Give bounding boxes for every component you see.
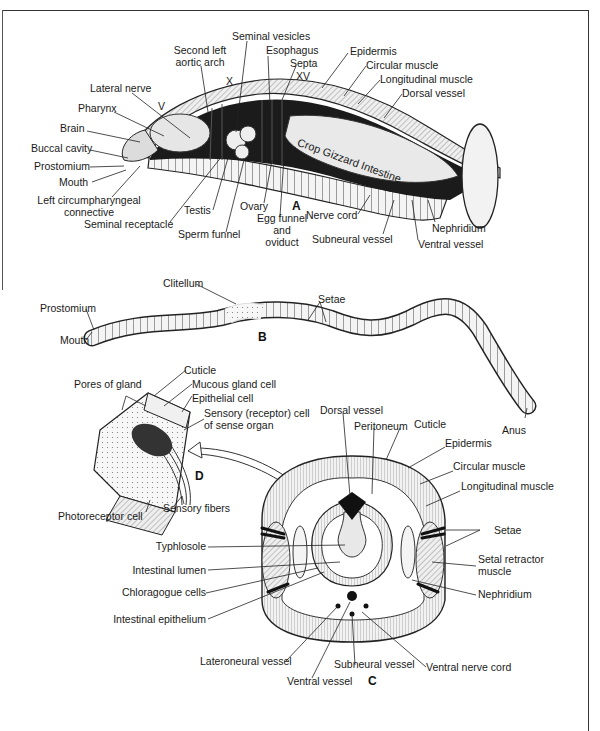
label-a-testis: Testis bbox=[184, 204, 211, 216]
panel-a-dissection bbox=[122, 79, 500, 228]
label-c-nephridium: Nephridium bbox=[478, 588, 532, 600]
panel-letter-a: A bbox=[292, 199, 301, 213]
segment-marker-x: X bbox=[226, 75, 233, 87]
label-c-lateroneural-vessel: Lateroneural vessel bbox=[200, 655, 292, 667]
label-c-setal-retractor-muscle: Setal retractor muscle bbox=[478, 553, 544, 577]
label-c-longitudinal-muscle: Longitudinal muscle bbox=[461, 480, 554, 492]
label-c-typhlosole: Typhlosole bbox=[100, 540, 206, 552]
label-a-brain: Brain bbox=[60, 122, 85, 134]
label-d-cuticle: Cuticle bbox=[184, 364, 216, 376]
label-a-nerve-cord: Nerve cord bbox=[306, 209, 357, 221]
label-d-sensory-receptor-cell: Sensory (receptor) cell of sense organ bbox=[204, 407, 310, 431]
label-d-mucous-gland-cell: Mucous gland cell bbox=[192, 378, 276, 390]
label-a-egg-funnel-and-oviduct: Egg funnel and oviduct bbox=[250, 212, 314, 248]
label-a-ventral-vessel: Ventral vessel bbox=[418, 238, 483, 250]
label-c-cuticle: Cuticle bbox=[414, 418, 446, 430]
label-a-mouth: Mouth bbox=[59, 176, 88, 188]
label-b-mouth: Mouth bbox=[60, 334, 89, 346]
label-d-pores-of-gland: Pores of gland bbox=[74, 378, 142, 390]
label-d-epithelial-cell: Epithelial cell bbox=[192, 392, 253, 404]
label-a-ovary: Ovary bbox=[240, 200, 268, 212]
label-a-seminal-vesicles: Seminal vesicles bbox=[232, 30, 310, 42]
label-c-ventral-vessel: Ventral vessel bbox=[287, 675, 352, 687]
label-c-chloragogue-cells: Chloragogue cells bbox=[60, 586, 206, 598]
segment-marker-v: V bbox=[158, 100, 165, 112]
label-a-prostomium: Prostomium bbox=[34, 160, 90, 172]
label-d-photoreceptor-cell: Photoreceptor cell bbox=[58, 510, 143, 522]
panel-b-whole-worm bbox=[92, 307, 528, 406]
label-a-nephridium: Nephridium bbox=[432, 222, 486, 234]
label-c-dorsal-vessel: Dorsal vessel bbox=[320, 404, 383, 416]
label-a-lateral-nerve: Lateral nerve bbox=[90, 82, 151, 94]
panel-c-cross-section bbox=[262, 456, 445, 642]
label-b-setae: Setae bbox=[318, 293, 345, 305]
label-c-peritoneum: Peritoneum bbox=[354, 420, 408, 432]
label-c-epidermis: Epidermis bbox=[445, 437, 492, 449]
label-a-subneural-vessel: Subneural vessel bbox=[312, 233, 393, 245]
label-a-seminal-receptacle: Seminal receptacle bbox=[84, 218, 173, 230]
panel-letter-c: C bbox=[368, 674, 377, 688]
label-a-second-left-aortic-arch: Second left aortic arch bbox=[150, 44, 250, 68]
label-a-longitudinal-muscle: Longitudinal muscle bbox=[380, 73, 473, 85]
label-c-intestinal-epithelium: Intestinal epithelium bbox=[40, 613, 206, 625]
label-b-clitellum: Clitellum bbox=[163, 277, 203, 289]
label-a-pharynx: Pharynx bbox=[78, 102, 117, 114]
label-b-prostomium: Prostomium bbox=[40, 302, 96, 314]
label-c-intestinal-lumen: Intestinal lumen bbox=[60, 564, 206, 576]
panel-letter-b: B bbox=[258, 330, 267, 344]
label-c-setae: Setae bbox=[494, 524, 521, 536]
segment-marker-xv: XV bbox=[296, 70, 310, 82]
label-a-sperm-funnel: Sperm funnel bbox=[178, 228, 240, 240]
panel-letter-d: D bbox=[195, 469, 204, 483]
label-c-subneural-vessel: Subneural vessel bbox=[334, 658, 415, 670]
label-a-epidermis: Epidermis bbox=[350, 45, 397, 57]
label-c-circular-muscle: Circular muscle bbox=[453, 460, 525, 472]
label-a-buccal-cavity: Buccal cavity bbox=[31, 142, 92, 154]
label-a-septa: Septa bbox=[290, 57, 317, 69]
label-c-ventral-nerve-cord: Ventral nerve cord bbox=[426, 661, 511, 673]
label-a-esophagus: Esophagus bbox=[266, 44, 319, 56]
label-d-sensory-fibers: Sensory fibers bbox=[163, 502, 230, 514]
label-b-anus: Anus bbox=[502, 424, 526, 436]
label-a-dorsal-vessel: Dorsal vessel bbox=[402, 87, 465, 99]
label-a-circular-muscle: Circular muscle bbox=[366, 59, 438, 71]
label-a-left-circumpharyngeal-connective: Left circumpharyngeal connective bbox=[24, 194, 154, 218]
